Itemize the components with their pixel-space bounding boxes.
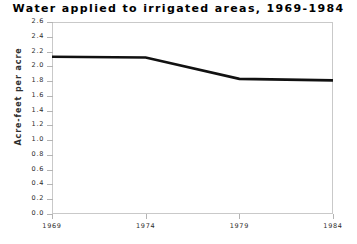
y-axis-tick-label: 1.2: [32, 120, 44, 128]
y-axis-tick-label: 1.4: [32, 106, 44, 114]
y-axis-tick-mark: [47, 140, 53, 141]
x-axis-tick-mark: [333, 214, 334, 219]
y-axis-tick-mark: [47, 52, 53, 53]
y-axis-tick-mark: [47, 155, 53, 156]
y-axis-tick-mark: [47, 22, 53, 23]
y-axis-tick-label: 0.2: [32, 194, 44, 202]
y-axis-tick-label: 1.0: [32, 135, 44, 143]
y-axis-tick-label: 0.0: [32, 209, 44, 217]
x-axis-tick-label: 1984: [311, 222, 355, 230]
plot-area: [52, 22, 333, 214]
y-axis-tick-mark: [47, 66, 53, 67]
x-axis-tick-label: 1974: [124, 222, 168, 230]
y-axis-tick-label: 2.4: [32, 32, 44, 40]
y-axis-tick-mark: [47, 37, 53, 38]
y-axis-tick-label: 0.4: [32, 179, 44, 187]
y-axis-tick-mark: [47, 125, 53, 126]
y-axis-tick-mark: [47, 96, 53, 97]
y-axis-tick-label: 2.2: [32, 47, 44, 55]
y-axis-tick-label: 1.8: [32, 76, 44, 84]
x-axis-tick-label: 1969: [30, 222, 74, 230]
y-axis-tick-mark: [47, 199, 53, 200]
y-axis-tick-label: 2.0: [32, 61, 44, 69]
y-axis-tick-label: 1.6: [32, 91, 44, 99]
y-axis-tick-label: 0.6: [32, 165, 44, 173]
x-axis-tick-mark: [239, 214, 240, 219]
y-axis-tick-mark: [47, 111, 53, 112]
y-axis-label: Acre-feet per acre: [14, 27, 23, 167]
y-axis-tick-mark: [47, 184, 53, 185]
y-axis-tick-mark: [47, 81, 53, 82]
y-axis-tick-mark: [47, 170, 53, 171]
x-axis-tick-mark: [52, 214, 53, 219]
y-axis-tick-label: 0.8: [32, 150, 44, 158]
chart-container: Water applied to irrigated areas, 1969-1…: [0, 0, 357, 244]
chart-title: Water applied to irrigated areas, 1969-1…: [0, 2, 357, 16]
x-axis-tick-mark: [146, 214, 147, 219]
y-axis-tick-label: 2.6: [32, 17, 44, 25]
x-axis-tick-label: 1979: [217, 222, 261, 230]
